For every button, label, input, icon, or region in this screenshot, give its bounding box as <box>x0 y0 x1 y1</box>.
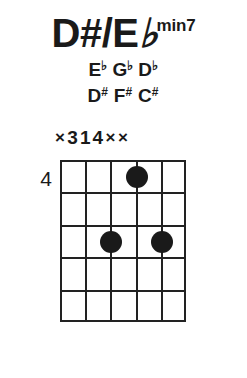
fingering-row: × 3 1 4 × × <box>60 128 186 148</box>
fret-line-5 <box>60 320 186 322</box>
fret-position-label: 4 <box>22 168 52 190</box>
string-marker-1: × <box>110 128 135 148</box>
fret-line-3 <box>60 257 186 259</box>
chord-title: D#/E♭min7 <box>0 4 247 56</box>
fret-line-1 <box>60 192 186 194</box>
flat-symbol-icon: ♭ <box>127 58 133 73</box>
chord-quality-label: min7 <box>157 16 196 35</box>
finger-dot-2 <box>151 231 173 253</box>
fret-line-4 <box>60 290 186 292</box>
fret-line-0 <box>60 160 186 162</box>
note-name-string-4-sharp: F# <box>110 82 135 106</box>
sharp-symbol-icon: # <box>125 85 132 99</box>
string-line-1 <box>184 160 186 322</box>
string-line-6 <box>60 160 62 322</box>
finger-dot-3 <box>100 231 122 253</box>
note-name-string-5-flat: E♭ <box>85 56 110 80</box>
fretboard-diagram <box>60 160 186 322</box>
finger-dot-1 <box>126 166 148 188</box>
string-line-5 <box>85 160 87 322</box>
sharp-symbol-icon: # <box>152 85 159 99</box>
flat-symbol-icon: ♭ <box>101 58 107 73</box>
note-name-string-3-flat: D♭ <box>136 56 161 80</box>
note-names-flat-row: E♭ G♭ D♭ <box>60 56 186 80</box>
note-name-string-5-sharp: D# <box>85 82 110 106</box>
fret-line-2 <box>60 225 186 227</box>
flat-symbol-icon: ♭ <box>152 58 158 73</box>
sharp-symbol-icon: # <box>101 85 108 99</box>
note-names-sharp-row: D# F# C# <box>60 82 186 106</box>
chord-root-label: D#/E <box>52 11 139 55</box>
flat-symbol-icon: ♭ <box>139 11 157 56</box>
note-name-string-3-sharp: C# <box>136 82 161 106</box>
note-name-string-4-flat: G♭ <box>110 56 135 80</box>
